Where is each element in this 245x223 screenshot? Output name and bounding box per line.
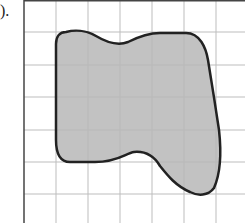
shaded-shape xyxy=(56,31,220,195)
grid-diagram xyxy=(0,0,245,223)
